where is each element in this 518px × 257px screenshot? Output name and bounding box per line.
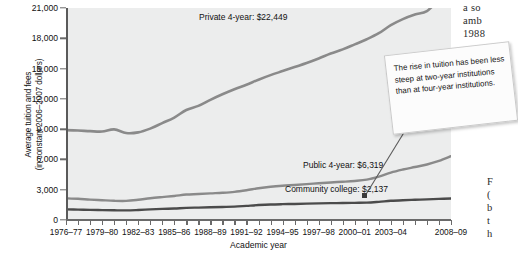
series-label-private-4-year: Private 4-year: $22,449	[199, 12, 287, 22]
y-axis-title-line2: (in constant 2006–2007 dollars)	[34, 20, 45, 210]
margin-text-line-8: h	[487, 228, 493, 239]
y-tick-mark	[60, 159, 66, 160]
x-tick-mark	[246, 220, 247, 225]
x-tick-mark	[174, 220, 175, 225]
series-label-community-college: Community college: $2,137	[285, 184, 388, 194]
x-tick-label: 1988–89	[194, 227, 226, 237]
series-label-public-4-year: Public 4-year: $6,319	[303, 160, 383, 170]
margin-text-line-5: (	[487, 189, 491, 200]
x-tick-mark	[379, 220, 380, 225]
x-tick-mark	[210, 220, 211, 225]
x-tick-mark	[234, 220, 235, 225]
x-tick-mark	[138, 220, 139, 225]
x-tick-mark	[427, 220, 428, 225]
x-tick-mark	[90, 220, 91, 225]
x-tick-mark	[451, 220, 452, 225]
x-tick-mark	[114, 220, 115, 225]
x-tick-label: 2000–01	[339, 227, 371, 237]
x-tick-mark	[102, 220, 103, 225]
x-tick-mark	[271, 220, 272, 225]
x-tick-mark	[415, 220, 416, 225]
callout-text: The rise in tuition has been less steep …	[393, 53, 508, 97]
x-tick-mark	[150, 220, 151, 225]
x-tick-mark	[307, 220, 308, 225]
x-tick-label: 1976–77	[50, 227, 82, 237]
y-tick-label: 6,000	[0, 154, 58, 164]
margin-text-line-1: a so	[463, 2, 481, 13]
margin-text-line-7: t	[487, 215, 490, 226]
y-tick-mark	[60, 128, 66, 129]
margin-text-line-4: F	[487, 176, 493, 187]
x-tick-label: 1982–83	[122, 227, 154, 237]
callout-box: The rise in tuition has been less steep …	[384, 41, 518, 135]
x-tick-mark	[439, 220, 440, 225]
x-tick-mark	[126, 220, 127, 225]
y-tick-label: 21,000	[0, 3, 58, 13]
y-tick-label: 3,000	[0, 185, 58, 195]
y-tick-mark	[60, 7, 66, 8]
y-tick-mark	[60, 68, 66, 69]
x-tick-mark	[295, 220, 296, 225]
x-tick-mark	[186, 220, 187, 225]
x-tick-label: 1994–95	[266, 227, 298, 237]
x-tick-label: 2008–09	[435, 227, 467, 237]
margin-text-line-2: amb	[463, 15, 482, 26]
x-tick-mark	[66, 220, 67, 225]
y-tick-mark	[60, 189, 66, 190]
x-tick-mark	[222, 220, 223, 225]
x-tick-mark	[331, 220, 332, 225]
x-tick-mark	[162, 220, 163, 225]
x-tick-mark	[319, 220, 320, 225]
y-tick-label: 0	[0, 215, 58, 225]
x-tick-mark	[78, 220, 79, 225]
x-axis-title: Academic year	[66, 240, 451, 250]
x-tick-label: 1979–80	[86, 227, 118, 237]
x-tick-mark	[259, 220, 260, 225]
x-tick-label: 1991–92	[230, 227, 262, 237]
margin-text-line-6: b	[487, 202, 493, 213]
x-tick-mark	[343, 220, 344, 225]
series-line-public-4-year	[66, 156, 451, 201]
x-tick-label: 1997–98	[303, 227, 335, 237]
x-tick-label: 1985–86	[158, 227, 190, 237]
y-tick-label: 12,000	[0, 94, 58, 104]
y-axis-title: Average tuition and fees (in constant 20…	[24, 20, 45, 210]
x-tick-label: 2003–04	[375, 227, 407, 237]
x-tick-mark	[283, 220, 284, 225]
x-tick-mark	[355, 220, 356, 225]
y-axis-title-line1: Average tuition and fees	[24, 20, 35, 210]
x-tick-mark	[391, 220, 392, 225]
y-tick-label: 15,000	[0, 64, 58, 74]
y-tick-label: 9,000	[0, 124, 58, 134]
margin-text-line-3: 1988	[463, 28, 485, 39]
y-tick-mark	[60, 98, 66, 99]
y-axis-spine	[66, 8, 68, 220]
x-tick-mark	[367, 220, 368, 225]
y-tick-label: 18,000	[0, 33, 58, 43]
x-tick-mark	[403, 220, 404, 225]
x-tick-mark	[198, 220, 199, 225]
y-tick-mark	[60, 38, 66, 39]
